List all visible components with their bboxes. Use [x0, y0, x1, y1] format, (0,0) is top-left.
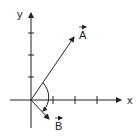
- x-axis: [10, 96, 121, 104]
- vector-diagram: y x A B: [0, 0, 139, 139]
- vector-a-label: A: [79, 29, 87, 41]
- angle-arc: [43, 83, 49, 111]
- vector-b-label: B: [55, 120, 62, 132]
- vector-a-arrow: [31, 37, 74, 100]
- vector-b-arrow: [31, 100, 49, 119]
- y-axis-label: y: [17, 8, 23, 20]
- y-axis: [28, 13, 34, 128]
- x-axis-label: x: [127, 94, 133, 106]
